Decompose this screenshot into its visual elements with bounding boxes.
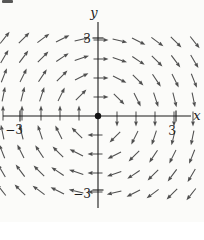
vector-arrow bbox=[171, 37, 182, 48]
vector-arrow bbox=[69, 170, 83, 175]
vector-arrow-head bbox=[155, 102, 159, 107]
vector-arrow bbox=[57, 71, 68, 82]
vector-arrow-head bbox=[77, 106, 81, 111]
vector-arrow bbox=[76, 90, 87, 101]
vector-arrow-head bbox=[4, 50, 8, 55]
vector-arrow-head bbox=[134, 122, 138, 127]
vector-arrow bbox=[37, 34, 49, 43]
vector-arrow bbox=[56, 53, 68, 61]
vector-arrow-shaft bbox=[152, 150, 158, 158]
vector-arrow bbox=[0, 184, 6, 196]
vector-arrow-head bbox=[83, 73, 88, 77]
vector-arrow-head bbox=[149, 158, 153, 163]
vector-arrow bbox=[19, 51, 28, 63]
vector-arrow-head bbox=[17, 145, 21, 150]
vector-arrow-head bbox=[39, 106, 43, 111]
vector-arrow-head bbox=[3, 68, 7, 73]
vector-arrow-head bbox=[38, 125, 42, 130]
vector-arrow bbox=[134, 93, 141, 106]
vector-arrow-shaft bbox=[151, 37, 159, 43]
vector-arrow-shaft bbox=[18, 188, 25, 195]
vector-arrow-head bbox=[107, 192, 112, 196]
vector-arrow bbox=[131, 131, 138, 144]
vector-arrow bbox=[190, 37, 199, 49]
vector-arrow-shaft bbox=[58, 130, 63, 139]
vector-arrow bbox=[168, 169, 177, 181]
vector-arrow-head bbox=[137, 101, 141, 106]
vector-arrow-shaft bbox=[153, 131, 156, 141]
vector-arrow bbox=[173, 93, 177, 108]
vector-arrow-head bbox=[175, 82, 179, 87]
vector-arrow bbox=[38, 52, 49, 63]
vector-arrow-head bbox=[140, 61, 145, 65]
vector-arrow-shaft bbox=[113, 39, 123, 41]
vector-arrow-shaft bbox=[170, 189, 177, 196]
vector-arrow-shaft bbox=[171, 169, 177, 177]
vector-arrow-head bbox=[104, 38, 109, 42]
vector-arrow-head bbox=[104, 95, 109, 99]
vector-arrow bbox=[94, 95, 109, 99]
vector-arrow bbox=[20, 106, 24, 121]
vector-arrow bbox=[115, 112, 119, 127]
vector-arrow-head bbox=[127, 175, 132, 179]
vector-arrow bbox=[191, 74, 197, 88]
vector-arrow bbox=[147, 189, 159, 198]
vector-arrow-shaft bbox=[37, 169, 44, 176]
vector-arrow-shaft bbox=[172, 74, 177, 83]
vector-arrow-shaft bbox=[74, 171, 84, 174]
y-tick-label-negative-3: −3 bbox=[73, 187, 91, 201]
vector-arrow-shaft bbox=[55, 170, 63, 176]
vector-arrow bbox=[51, 167, 63, 175]
vector-arrow-shaft bbox=[0, 36, 6, 44]
vector-arrow bbox=[88, 152, 103, 156]
vector-arrow bbox=[19, 33, 30, 44]
vector-arrow bbox=[132, 38, 145, 45]
vector-arrow-head bbox=[55, 126, 59, 131]
vector-arrow bbox=[58, 88, 65, 101]
vector-arrow bbox=[35, 145, 43, 157]
vector-arrow-shaft bbox=[153, 74, 159, 82]
vector-arrow-head bbox=[153, 122, 157, 127]
vector-arrow bbox=[148, 170, 159, 181]
vector-arrow bbox=[0, 144, 5, 158]
vector-arrow-head bbox=[121, 79, 126, 83]
vector-arrow-shaft bbox=[76, 93, 83, 100]
vector-arrow bbox=[75, 73, 88, 80]
vector-arrow bbox=[55, 126, 62, 139]
vector-arrow-head bbox=[192, 102, 196, 107]
vector-arrow-head bbox=[194, 63, 198, 68]
vector-arrow bbox=[15, 185, 26, 196]
vector-arrow bbox=[16, 165, 25, 177]
vector-arrow-shaft bbox=[112, 152, 121, 157]
vector-arrow-head bbox=[1, 106, 5, 111]
vector-arrow bbox=[33, 186, 45, 195]
vector-arrow-head bbox=[43, 69, 47, 74]
vector-arrow-shaft bbox=[112, 172, 122, 175]
vector-arrow-head bbox=[23, 69, 27, 74]
vector-arrow-shaft bbox=[191, 55, 196, 64]
x-axis-label: x bbox=[193, 108, 201, 123]
vector-arrow-head bbox=[64, 53, 69, 57]
vector-arrow bbox=[169, 150, 176, 163]
origin-point bbox=[95, 113, 101, 119]
vector-arrow-shaft bbox=[192, 131, 194, 141]
vector-arrow-head bbox=[140, 41, 145, 45]
vector-arrow bbox=[129, 151, 140, 162]
vector-arrow bbox=[113, 76, 126, 83]
vector-arrow-head bbox=[51, 167, 56, 171]
vector-arrow-head bbox=[88, 152, 93, 156]
vector-arrow-shaft bbox=[151, 189, 159, 195]
vector-arrow-shaft bbox=[1, 149, 5, 158]
vector-arrow bbox=[108, 152, 121, 159]
vector-arrow bbox=[127, 171, 139, 179]
vector-arrow-shaft bbox=[154, 93, 157, 103]
vector-arrow-head bbox=[64, 35, 69, 39]
vector-arrow-shaft bbox=[172, 150, 177, 159]
vector-arrow-head bbox=[131, 139, 135, 144]
vector-arrow bbox=[153, 74, 161, 86]
x-tick-label-negative-3: −3 bbox=[5, 123, 23, 137]
vector-arrow-shaft bbox=[112, 191, 122, 193]
vector-arrow bbox=[189, 150, 195, 164]
vector-arrow-shaft bbox=[19, 36, 26, 43]
vector-arrow-head bbox=[61, 88, 65, 93]
